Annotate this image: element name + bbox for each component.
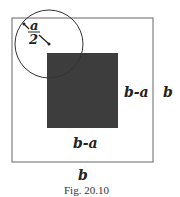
radius-line-lower — [39, 35, 49, 44]
radius-endpoint — [23, 23, 26, 26]
inner-square — [47, 53, 118, 128]
figure-caption: Fig. 20.10 — [64, 184, 109, 196]
radius-denominator: 2 — [28, 32, 38, 47]
inner-right-label: b-a — [124, 84, 149, 100]
circle-center — [48, 43, 51, 46]
outer-right-label: b — [163, 84, 173, 100]
radius-numerator: a — [30, 18, 38, 33]
outer-bottom-label: b — [78, 167, 88, 183]
radius-line-upper — [25, 25, 29, 29]
inner-bottom-label: b-a — [73, 135, 98, 151]
diagram: a 2 b-a b b-a b Fig. 20.10 — [0, 0, 180, 197]
